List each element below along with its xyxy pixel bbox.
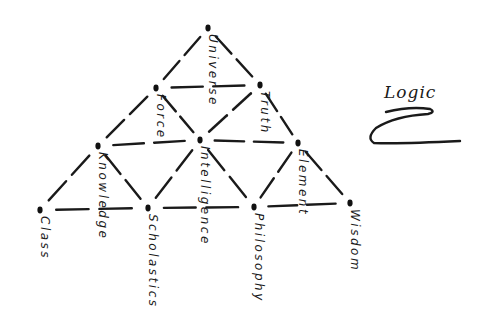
node-force bbox=[153, 85, 158, 92]
edge-truth-intelligence bbox=[209, 115, 227, 132]
node-label-force: Force bbox=[154, 94, 168, 140]
node-class bbox=[37, 207, 42, 214]
edge-element-wisdom bbox=[327, 176, 343, 194]
edge-knowledge-class bbox=[49, 181, 66, 200]
node-label-class: Class bbox=[38, 216, 52, 260]
node-element bbox=[295, 140, 300, 147]
node-philosophy bbox=[251, 204, 256, 211]
edge-force-intelligence bbox=[180, 117, 193, 133]
edge-intelligence-element bbox=[215, 140, 244, 141]
edge-universe-truth bbox=[237, 59, 253, 76]
node-label-universe: Universe bbox=[206, 34, 220, 107]
node-label-element: Element bbox=[296, 149, 310, 216]
diagram-canvas bbox=[0, 0, 483, 332]
node-intelligence bbox=[197, 137, 202, 144]
node-wisdom bbox=[347, 200, 352, 207]
edge-knowledge-intelligence bbox=[113, 143, 144, 145]
edge-force-truth bbox=[172, 87, 203, 88]
node-label-intelligence: Intelligence bbox=[198, 146, 212, 246]
edge-philosophy-wisdom bbox=[307, 204, 336, 205]
node-label-scholastics: Scholastics bbox=[146, 214, 160, 309]
edge-truth-intelligence bbox=[233, 93, 251, 110]
edge-intelligence-scholastics bbox=[177, 150, 193, 170]
edge-force-knowledge bbox=[130, 97, 147, 114]
node-label-philosophy: Philosophy bbox=[252, 213, 266, 303]
edge-force-knowledge bbox=[107, 120, 124, 137]
node-knowledge bbox=[95, 143, 100, 150]
edge-knowledge-class bbox=[72, 156, 89, 175]
node-truth bbox=[257, 82, 262, 89]
edge-intelligence-scholastics bbox=[156, 177, 172, 197]
node-label-wisdom: Wisdom bbox=[348, 209, 362, 272]
edge-knowledge-scholastics bbox=[126, 180, 141, 199]
edge-class-scholastics bbox=[56, 209, 88, 210]
node-scholastics bbox=[145, 205, 150, 212]
edge-intelligence-philosophy bbox=[230, 177, 246, 197]
edge-universe-force bbox=[164, 61, 180, 79]
edge-universe-force bbox=[185, 37, 201, 55]
node-universe bbox=[205, 25, 210, 32]
edge-knowledge-intelligence bbox=[154, 141, 185, 143]
node-label-truth: Truth bbox=[258, 91, 272, 135]
logic-underline-swoosh bbox=[370, 108, 460, 143]
edge-element-philosophy bbox=[261, 178, 274, 197]
diagram-title: Logic bbox=[384, 82, 436, 102]
edge-philosophy-wisdom bbox=[268, 205, 297, 206]
edge-intelligence-element bbox=[254, 142, 283, 143]
edge-element-philosophy bbox=[278, 153, 291, 172]
edge-truth-element bbox=[281, 117, 292, 134]
node-label-knowledge: Knowledge bbox=[96, 152, 110, 240]
